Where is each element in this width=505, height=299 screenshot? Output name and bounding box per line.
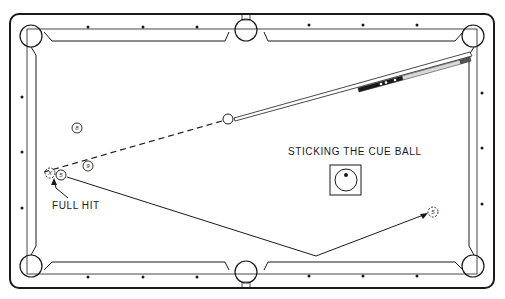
arrowhead-icon bbox=[420, 213, 428, 219]
full-hit-label: FULL HIT bbox=[52, 200, 100, 211]
ball-5-final-number: 5 bbox=[431, 209, 435, 215]
pocket-top-right bbox=[462, 25, 484, 47]
cushion-right bbox=[469, 47, 474, 255]
cue-stick bbox=[234, 52, 472, 121]
cushion-top-left bbox=[44, 32, 229, 41]
pocket-bottom-middle bbox=[235, 261, 257, 283]
ball-9-number: 9 bbox=[86, 163, 90, 169]
cue-ball bbox=[223, 114, 233, 124]
ball-5-number: 5 bbox=[59, 172, 63, 178]
pocket-top-left bbox=[20, 25, 42, 47]
cue-ball-path bbox=[44, 121, 222, 172]
cushion-bottom-left bbox=[44, 262, 229, 270]
cushion-left bbox=[31, 47, 36, 255]
pocket-top-middle bbox=[235, 19, 257, 41]
full-hit-arrow bbox=[54, 180, 68, 198]
diagram-title: STICKING THE CUE BALL bbox=[288, 146, 422, 157]
object-ball-path bbox=[67, 177, 426, 256]
arrowhead-icon bbox=[51, 178, 57, 185]
cushion-top-right bbox=[264, 32, 463, 41]
ghost-ball-mark: X bbox=[47, 170, 53, 176]
ball-8-number: 8 bbox=[75, 125, 79, 131]
pool-table: 8 9 X 5 5 bbox=[0, 0, 505, 299]
hit-point-icon bbox=[344, 173, 348, 177]
hit-diagram-ball bbox=[335, 169, 357, 191]
cushion-bottom-right bbox=[264, 262, 463, 270]
